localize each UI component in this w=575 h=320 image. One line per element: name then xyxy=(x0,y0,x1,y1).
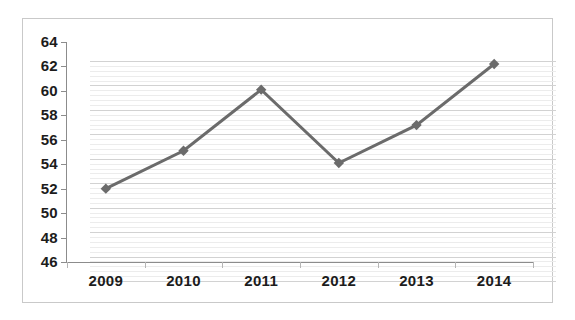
y-axis-tick-label: 52 xyxy=(22,180,58,197)
plot-area xyxy=(90,61,556,281)
major-gridlines xyxy=(90,61,556,281)
y-axis-tick xyxy=(61,238,67,239)
x-axis-tick-label: 2009 xyxy=(67,272,145,289)
y-axis-labels: 46485052545658606264 xyxy=(18,0,58,320)
major-gridline xyxy=(90,208,556,209)
y-axis-tick xyxy=(61,213,67,214)
x-axis-tick-label: 2010 xyxy=(145,272,223,289)
major-gridline xyxy=(90,134,556,135)
x-axis-tick-label: 2011 xyxy=(222,272,300,289)
major-gridline xyxy=(90,159,556,160)
y-axis-tick-label: 62 xyxy=(22,57,58,74)
x-axis-tick xyxy=(67,262,68,268)
y-axis-tick-label: 50 xyxy=(22,204,58,221)
y-axis-tick-label: 46 xyxy=(22,253,58,270)
x-axis-tick xyxy=(145,262,146,268)
major-gridline xyxy=(90,85,556,86)
x-axis-tick xyxy=(533,262,534,268)
x-axis-tick xyxy=(222,262,223,268)
x-axis-tick xyxy=(378,262,379,268)
y-axis-tick-label: 54 xyxy=(22,155,58,172)
y-axis-tick xyxy=(61,140,67,141)
x-axis-tick xyxy=(455,262,456,268)
y-axis-tick-label: 58 xyxy=(22,106,58,123)
x-axis-tick-label: 2014 xyxy=(455,272,533,289)
x-axis-tick-label: 2013 xyxy=(378,272,456,289)
major-gridline xyxy=(90,257,556,258)
y-axis-tick xyxy=(61,115,67,116)
chart-frame xyxy=(22,18,553,303)
y-axis-tick-label: 48 xyxy=(22,229,58,246)
y-axis-tick xyxy=(61,42,67,43)
y-axis-tick xyxy=(61,164,67,165)
y-axis-tick xyxy=(61,189,67,190)
y-axis-tick xyxy=(61,66,67,67)
major-gridline xyxy=(90,232,556,233)
y-axis-tick-label: 64 xyxy=(22,33,58,50)
x-axis-tick-label: 2012 xyxy=(300,272,378,289)
major-gridline xyxy=(90,61,556,62)
y-axis-line xyxy=(66,42,67,263)
x-axis-tick xyxy=(300,262,301,268)
y-axis-tick-label: 60 xyxy=(22,82,58,99)
y-axis-tick xyxy=(61,91,67,92)
major-gridline xyxy=(90,110,556,111)
major-gridline xyxy=(90,183,556,184)
y-axis-tick-label: 56 xyxy=(22,131,58,148)
